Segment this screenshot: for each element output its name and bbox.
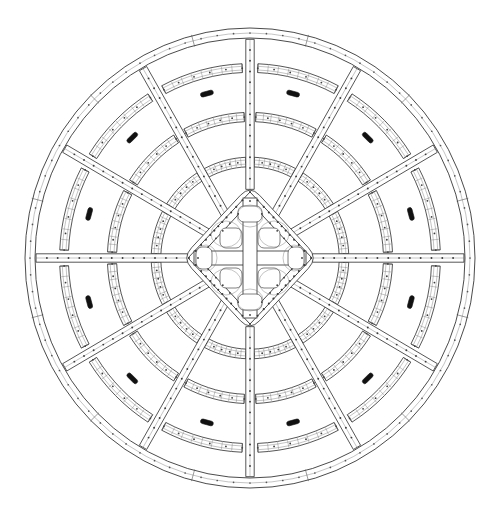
rim-rivet bbox=[184, 42, 186, 44]
spoke-rivet bbox=[131, 188, 133, 190]
spoke-rivet bbox=[249, 167, 251, 169]
spoke-rivet bbox=[376, 332, 378, 334]
rim-splice-joint bbox=[32, 198, 44, 201]
rim-rivet bbox=[32, 291, 34, 293]
spoke-rivet bbox=[306, 358, 308, 360]
ring-rivet bbox=[377, 203, 379, 205]
hub-rivet bbox=[241, 315, 243, 317]
ring-rivet bbox=[112, 129, 114, 131]
spoke-rivet bbox=[199, 287, 201, 289]
rim-rivet bbox=[112, 81, 114, 83]
ring-rivet bbox=[267, 397, 269, 399]
spoke-rivet bbox=[249, 358, 251, 360]
hub-rivet bbox=[195, 250, 197, 252]
hub-rivet bbox=[235, 308, 237, 310]
ring-rivet bbox=[289, 443, 291, 445]
ring-rivet bbox=[333, 369, 335, 371]
rim-rivet bbox=[77, 117, 79, 119]
spoke-rivet bbox=[409, 257, 411, 259]
spoke-rivet bbox=[312, 368, 314, 370]
spoke-rivet bbox=[366, 257, 368, 259]
ring-rivet bbox=[147, 162, 149, 164]
hub-rivet bbox=[257, 315, 259, 317]
hub-rivet bbox=[268, 303, 270, 305]
ring-rivet bbox=[305, 76, 307, 78]
ring-segment bbox=[258, 64, 339, 94]
ring-rivet bbox=[237, 162, 239, 164]
spoke-rivet bbox=[333, 257, 335, 259]
spoke-rivet bbox=[334, 407, 336, 409]
rim-splice-joint bbox=[457, 315, 469, 318]
spoke-rivet bbox=[249, 92, 251, 94]
hub-rivet bbox=[289, 280, 291, 282]
ring-rivet bbox=[178, 433, 180, 435]
rim-rivet bbox=[154, 460, 156, 462]
spoke-rivet bbox=[284, 195, 286, 197]
rim-rivet bbox=[440, 370, 442, 372]
ring-rivet bbox=[384, 288, 386, 290]
ring-rivet bbox=[219, 395, 221, 397]
ring-rivet bbox=[178, 82, 180, 84]
ring-segment bbox=[60, 168, 89, 250]
ring-rivet bbox=[67, 216, 69, 218]
spoke-rivet bbox=[122, 332, 124, 334]
rim-rivet bbox=[359, 62, 361, 64]
ring-rivet bbox=[269, 163, 271, 165]
rim-rivet bbox=[39, 323, 41, 325]
hub-rivet bbox=[241, 199, 243, 201]
ring-segment bbox=[254, 339, 296, 359]
hub-rivet bbox=[200, 244, 202, 246]
ring-rivet bbox=[386, 239, 388, 241]
spoke-rivet bbox=[179, 216, 181, 218]
hub-rivet bbox=[188, 257, 190, 259]
ring-rivet bbox=[147, 352, 149, 354]
spoke-rivet bbox=[151, 315, 153, 317]
fitting-marker bbox=[126, 131, 138, 143]
ring-rivet bbox=[174, 199, 176, 201]
spoke-rivet bbox=[189, 222, 191, 224]
hub-rivet bbox=[235, 206, 237, 208]
ring-rivet bbox=[362, 106, 364, 108]
ring-rivet bbox=[279, 395, 281, 397]
ring-rivet bbox=[237, 352, 239, 354]
rim-rivet bbox=[139, 62, 141, 64]
ring-rivet bbox=[302, 387, 304, 389]
hub-rivet bbox=[207, 268, 209, 270]
spoke-rivet bbox=[143, 257, 145, 259]
ring-rivet bbox=[434, 233, 436, 235]
spoke-rivet bbox=[83, 355, 85, 357]
spoke-rivet bbox=[249, 401, 251, 403]
rim-rivet bbox=[421, 117, 423, 119]
ring-rivet bbox=[101, 142, 103, 144]
spoke-rivet bbox=[452, 257, 454, 259]
ring-rivet bbox=[159, 228, 161, 230]
spoke-rivet bbox=[376, 182, 378, 184]
spoke-rivet bbox=[317, 378, 319, 380]
spoke-rivet bbox=[131, 327, 133, 329]
spoke-rivet bbox=[386, 338, 388, 340]
rim-rivet bbox=[314, 42, 316, 44]
rim-rivet bbox=[67, 130, 69, 132]
spoke-rivet bbox=[367, 188, 369, 190]
rim-rivet bbox=[298, 477, 300, 479]
ring-rivet bbox=[231, 117, 233, 119]
ring-segment bbox=[184, 113, 244, 138]
ring-rivet bbox=[118, 300, 120, 302]
hub-rivet bbox=[205, 239, 207, 241]
rim-splice-joint bbox=[32, 315, 44, 318]
hub-rivet bbox=[272, 298, 274, 300]
ring-rivet bbox=[318, 192, 320, 194]
rim-rivet bbox=[59, 370, 61, 372]
spoke-rivet bbox=[164, 107, 166, 109]
hub-rivet bbox=[249, 191, 251, 193]
rim-rivet bbox=[39, 191, 41, 193]
spoke-rivet bbox=[415, 355, 417, 357]
spoke-rivet bbox=[249, 178, 251, 180]
hub-rivet bbox=[269, 222, 271, 224]
hub-rivet bbox=[217, 289, 219, 291]
rim-rivet bbox=[266, 33, 268, 35]
rim-rivet bbox=[169, 48, 171, 50]
rim-rivet bbox=[314, 472, 316, 474]
spoke-rivet bbox=[181, 136, 183, 138]
spoke-rivet bbox=[387, 257, 389, 259]
